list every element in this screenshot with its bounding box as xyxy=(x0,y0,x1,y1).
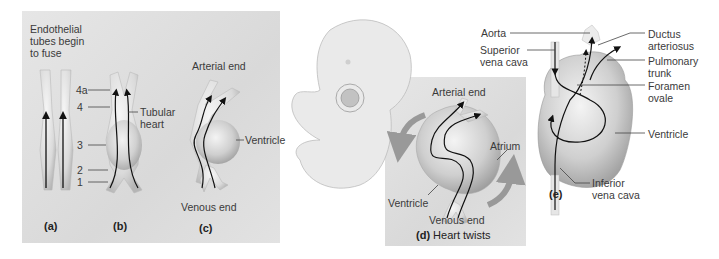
panel-c-ventricle: Ventricle xyxy=(245,134,285,146)
endothelial-tubes-illustration xyxy=(40,70,73,190)
panel-d-venous-end: Venous end xyxy=(429,214,484,226)
embryo-illustration xyxy=(292,20,411,188)
label-4a: 4a xyxy=(76,84,88,96)
label-inferior-vena-cava: Inferior vena cava xyxy=(592,177,640,201)
tubular-heart-label: Tubular heart xyxy=(140,106,175,130)
panel-c-venous-end: Venous end xyxy=(181,201,236,213)
panel-d-atrium: Atrium xyxy=(490,140,520,152)
panel-b-caption: (b) xyxy=(113,220,127,232)
label-foramen-ovale: Foramen ovale xyxy=(648,80,690,104)
panel-a-caption: (a) xyxy=(44,220,57,232)
panel-a-title: Endothelial tubes begin to fuse xyxy=(30,23,84,59)
label-1: 1 xyxy=(77,176,83,188)
panel-c-caption: (c) xyxy=(199,222,212,234)
panel-d-caption: (d) Heart twists xyxy=(416,229,491,241)
label-4: 4 xyxy=(77,101,83,113)
panel-c-arterial-end: Arterial end xyxy=(192,60,246,72)
tubular-heart-illustration xyxy=(88,72,142,193)
label-aorta: Aorta xyxy=(481,27,506,39)
label-ventricle-e: Ventricle xyxy=(648,128,688,140)
panel-d-ventricle: Ventricle xyxy=(388,197,428,209)
panel-d-arterial-end: Arterial end xyxy=(432,86,486,98)
panel-e-caption: (e) xyxy=(549,188,562,200)
looping-heart-illustration xyxy=(190,80,244,192)
illustration-layer xyxy=(0,0,719,259)
label-pulmonary-trunk: Pulmonary trunk xyxy=(648,55,698,79)
label-ductus-arteriosus: Ductus arteriosus xyxy=(648,28,694,52)
label-3: 3 xyxy=(77,139,83,151)
label-2: 2 xyxy=(77,164,83,176)
label-superior-vena-cava: Superior vena cava xyxy=(480,44,528,68)
